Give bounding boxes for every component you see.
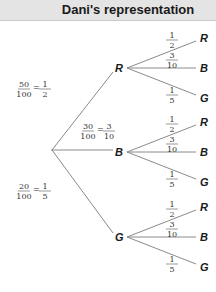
node-level1-B: B: [115, 146, 123, 158]
branch-R-G: [127, 68, 196, 95]
prob-level1-B-simplified-denominator: 10: [104, 132, 114, 141]
prob-B-R-numerator: 1: [169, 115, 174, 124]
prob-level1-R-simplified-denominator: 2: [42, 90, 47, 99]
prob-R-B-numerator: 3: [169, 51, 174, 60]
node-level1-G: G: [115, 231, 124, 243]
root-node: [51, 149, 53, 151]
leaf-G-R: R: [200, 201, 208, 213]
prob-G-B-denominator: 10: [167, 230, 177, 239]
leaf-B-G: G: [200, 176, 209, 188]
probability-tree-diagram: R50100=12R12B310G15B30100=310R12B310G15G…: [0, 0, 216, 292]
prob-R-R-numerator: 1: [169, 31, 174, 40]
leaf-R-R: R: [200, 32, 208, 44]
prob-G-R-numerator: 1: [169, 200, 174, 209]
prob-B-R-denominator: 2: [169, 125, 174, 134]
branch-B-R: [127, 125, 196, 152]
prob-level1-B-simplified-numerator: 3: [106, 122, 111, 131]
prob-G-B-numerator: 3: [169, 220, 174, 229]
prob-level1-R-raw-denominator: 100: [16, 90, 31, 99]
prob-level1-G-raw-numerator: 20: [19, 182, 29, 191]
prob-R-G-numerator: 1: [169, 86, 174, 95]
branch-G-G: [127, 237, 196, 264]
leaf-R-B: B: [200, 62, 208, 74]
equals-sign: =: [97, 125, 104, 134]
prob-level1-R-raw-numerator: 50: [19, 80, 29, 89]
prob-B-G-denominator: 5: [169, 180, 174, 189]
prob-R-B-denominator: 10: [167, 61, 177, 70]
leaf-R-G: G: [200, 92, 209, 104]
prob-level1-G-simplified-numerator: 1: [42, 182, 47, 191]
prob-G-G-numerator: 1: [169, 255, 174, 264]
prob-level1-G-simplified-denominator: 5: [42, 192, 47, 201]
prob-level1-B-raw-numerator: 30: [83, 122, 93, 131]
prob-level1-G-raw-denominator: 100: [16, 192, 31, 201]
leaf-G-G: G: [200, 261, 209, 273]
leaf-G-B: B: [200, 231, 208, 243]
equals-sign: =: [33, 185, 40, 194]
prob-R-R-denominator: 2: [169, 41, 174, 50]
leaf-B-R: R: [200, 116, 208, 128]
leaf-B-B: B: [200, 146, 208, 158]
branch-B-G: [127, 152, 196, 179]
prob-G-G-denominator: 5: [169, 265, 174, 274]
branch-G-R: [127, 210, 196, 237]
node-level1-R: R: [115, 62, 123, 74]
equals-sign: =: [33, 83, 40, 92]
prob-level1-B-raw-denominator: 100: [80, 132, 95, 141]
prob-G-R-denominator: 2: [169, 210, 174, 219]
prob-B-B-numerator: 3: [169, 135, 174, 144]
prob-level1-R-simplified-numerator: 1: [42, 80, 47, 89]
branch-R-R: [127, 41, 196, 68]
branch-root-G: [52, 150, 113, 233]
prob-B-B-denominator: 10: [167, 145, 177, 154]
prob-B-G-numerator: 1: [169, 170, 174, 179]
prob-R-G-denominator: 5: [169, 96, 174, 105]
